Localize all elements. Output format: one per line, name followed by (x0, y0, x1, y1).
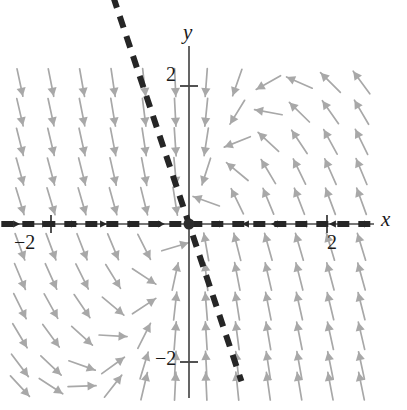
field-arrow (16, 158, 26, 185)
field-arrow (263, 292, 272, 319)
field-arrow-head (201, 322, 210, 331)
field-arrow (48, 69, 57, 96)
field-arrow (110, 128, 119, 155)
field-arrow (171, 128, 180, 156)
field-arrow-head (140, 117, 149, 126)
field-arrow-head (171, 372, 180, 381)
field-arrow (325, 263, 334, 290)
field-arrow-head (325, 263, 334, 272)
field-arrow (356, 293, 365, 320)
field-arrow (102, 357, 125, 373)
field-arrow-head (79, 146, 88, 155)
field-arrow (355, 233, 365, 260)
field-arrow (77, 234, 88, 260)
field-arrow (294, 263, 303, 290)
field-arrow-head (356, 293, 365, 302)
field-arrow (41, 356, 61, 375)
field-arrow-head (141, 352, 150, 361)
field-arrow-head (263, 292, 272, 301)
field-arrow-head (201, 117, 210, 126)
field-arrow (255, 107, 283, 116)
field-arrow-head (294, 292, 303, 301)
field-arrow (79, 128, 88, 155)
field-arrow-head (17, 176, 26, 185)
field-arrow-head (263, 322, 272, 331)
field-arrow-head (115, 357, 125, 366)
field-arrow (201, 128, 210, 156)
field-arrow (263, 322, 272, 350)
field-arrow-head (263, 352, 272, 361)
field-arrow (162, 241, 189, 251)
vector-arrow-layer (10, 69, 369, 401)
field-arrow (43, 324, 59, 347)
field-arrow (48, 128, 57, 155)
field-arrow (355, 129, 368, 154)
field-arrow-head (146, 298, 156, 307)
field-arrow (355, 159, 367, 185)
y-tick-label-positive: 2 (166, 64, 176, 84)
field-arrow (104, 375, 121, 397)
field-arrow-head (325, 293, 334, 302)
field-arrow-head (172, 206, 181, 215)
field-arrow (109, 98, 118, 126)
field-arrow (171, 322, 180, 350)
field-arrow-head (262, 233, 271, 242)
field-arrow (287, 76, 313, 88)
field-arrow (14, 294, 27, 319)
field-arrow (172, 263, 181, 290)
field-arrow (261, 160, 275, 184)
field-arrow-head (232, 322, 241, 331)
field-arrow (201, 69, 210, 97)
field-arrow-head (78, 87, 87, 96)
field-arrow (263, 263, 272, 290)
field-arrow-head (200, 175, 209, 185)
field-arrow-head (48, 87, 57, 96)
field-arrow (45, 264, 57, 290)
field-arrow (201, 322, 210, 350)
field-arrow-head (79, 176, 88, 185)
field-arrow (321, 73, 341, 93)
field-arrow (293, 233, 303, 260)
field-arrow (232, 322, 241, 350)
field-arrow (171, 98, 180, 126)
field-arrow (47, 188, 57, 215)
direction-field-canvas (0, 0, 407, 410)
field-arrow-head (109, 87, 118, 96)
field-arrow (224, 137, 250, 149)
field-arrow (16, 188, 26, 215)
field-arrow (325, 322, 334, 349)
field-arrow-head (110, 146, 119, 155)
field-arrow (68, 381, 96, 390)
field-arrow (138, 323, 151, 348)
field-arrow-head (294, 322, 303, 331)
field-arrow (17, 69, 26, 96)
field-arrow-head (201, 88, 210, 97)
field-arrow (17, 128, 26, 155)
field-arrow (140, 352, 150, 379)
field-arrow-head (53, 385, 63, 393)
field-arrow (141, 188, 150, 215)
field-arrow-head (325, 352, 334, 361)
field-arrow (106, 265, 121, 289)
field-arrow-head (294, 352, 303, 361)
field-arrow-head (172, 263, 181, 272)
field-arrow (232, 292, 241, 320)
field-arrow (140, 128, 149, 156)
field-arrow-head (201, 292, 210, 301)
field-arrow (132, 298, 155, 313)
field-arrow-head (109, 117, 118, 126)
field-arrow-head (171, 117, 180, 126)
field-arrow-head (201, 147, 210, 156)
field-arrow (12, 354, 29, 376)
field-arrow-head (201, 233, 210, 242)
field-arrow-head (17, 87, 26, 96)
field-arrow (356, 322, 365, 349)
field-arrow (353, 71, 370, 94)
field-arrow-head (141, 176, 150, 185)
field-arrow (171, 292, 180, 320)
field-arrow (141, 158, 150, 186)
y-tick-label-negative: −2 (155, 348, 176, 368)
field-arrow-head (171, 88, 180, 97)
field-arrow-head (140, 88, 149, 97)
field-arrow-head (17, 117, 26, 126)
